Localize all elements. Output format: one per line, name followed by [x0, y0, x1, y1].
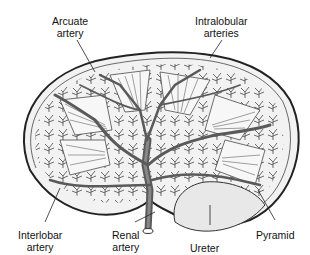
label-interlobar-artery: Interlobar artery: [18, 229, 62, 253]
label-pyramid: Pyramid: [256, 229, 295, 241]
label-intralobular-arteries: Intralobular arteries: [195, 15, 248, 39]
label-arcuate-artery: Arcuate artery: [52, 15, 88, 39]
label-ureter: Ureter: [190, 242, 219, 254]
label-renal-artery: Renal artery: [112, 229, 139, 253]
kidney-diagram: Arcuate artery Intralobular arteries Int…: [0, 0, 310, 255]
renal-artery-opening: [143, 229, 153, 234]
kidney-illustration: [0, 0, 310, 255]
